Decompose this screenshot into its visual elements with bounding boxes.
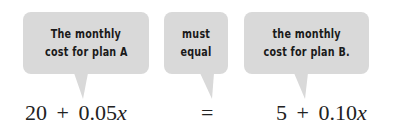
callout-line: The monthly	[51, 25, 121, 43]
callout-line: must	[182, 25, 210, 43]
callout-pointer-icon	[198, 73, 218, 99]
callout-line: cost for plan B.	[263, 43, 349, 61]
coefficient: 0.10	[318, 100, 357, 125]
callout-line: cost for plan A	[45, 43, 128, 61]
callout-line: equal	[180, 43, 211, 61]
callout-plan-a-cost: The monthly cost for plan A	[23, 12, 149, 74]
callout-must-equal: must equal	[164, 12, 228, 74]
constant: 20	[25, 100, 47, 125]
callout-plan-b-cost: the monthly cost for plan B.	[244, 12, 369, 74]
equation-right-side: 5 + 0.10x	[276, 100, 367, 126]
operator-plus: +	[297, 100, 309, 125]
equation-left-side: 20 + 0.05x	[25, 100, 127, 126]
equals-sign: =	[201, 100, 213, 125]
constant: 5	[276, 100, 287, 125]
callout-line: the monthly	[272, 25, 340, 43]
variable: x	[117, 100, 127, 125]
equation-relation: =	[201, 100, 213, 126]
callout-pointer-icon	[70, 73, 90, 99]
callout-pointer-icon	[292, 73, 312, 99]
coefficient: 0.05	[78, 100, 117, 125]
variable: x	[357, 100, 367, 125]
operator-plus: +	[57, 100, 69, 125]
